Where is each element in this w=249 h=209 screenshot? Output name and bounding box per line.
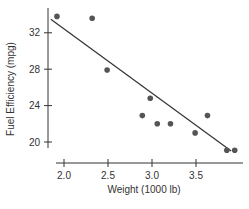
y-axis: 20242832 <box>29 8 52 148</box>
data-points <box>54 14 237 153</box>
data-point <box>192 130 198 136</box>
data-point <box>140 113 146 119</box>
y-axis-label: Fuel Efficiency (mpg) <box>5 42 16 136</box>
x-axis-label: Weight (1000 lb) <box>107 184 180 195</box>
data-point <box>104 67 110 73</box>
data-point <box>168 121 174 127</box>
y-tick-label: 28 <box>29 64 41 75</box>
data-point <box>154 121 160 127</box>
x-tick-label: 2.0 <box>57 170 71 181</box>
y-tick-label: 32 <box>29 27 41 38</box>
scatter-chart: 20242832 2.02.53.03.5 Weight (1000 lb) F… <box>0 0 249 209</box>
y-tick-label: 24 <box>29 100 41 111</box>
x-tick-label: 3.5 <box>189 170 203 181</box>
data-point <box>89 15 95 21</box>
x-axis: 2.02.53.03.5 <box>56 159 243 181</box>
data-point <box>232 147 238 153</box>
x-tick-label: 3.0 <box>145 170 159 181</box>
data-point <box>147 96 153 102</box>
data-point <box>205 113 211 119</box>
data-point <box>224 147 230 153</box>
regression-line <box>51 19 231 151</box>
data-point <box>54 14 60 20</box>
y-tick-label: 20 <box>29 137 41 148</box>
x-tick-label: 2.5 <box>101 170 115 181</box>
